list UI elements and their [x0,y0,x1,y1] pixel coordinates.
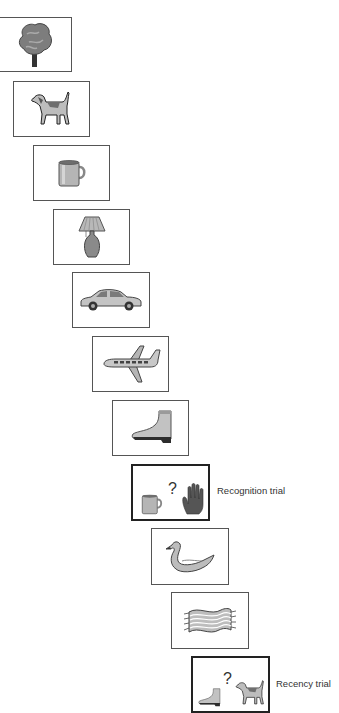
scarf-icon [181,604,239,638]
recognition-trial-label: Recognition trial [217,485,285,496]
card-swan [151,528,229,585]
card-boot [112,400,189,456]
card-dog [13,81,90,137]
dog-icon [235,678,267,708]
card-airplane [92,336,169,392]
car-icon [79,288,143,312]
question-mark: ? [223,670,232,688]
airplane-icon [100,344,162,384]
card-lamp [53,209,130,265]
card-recognition-trial: ? [131,464,210,521]
recency-trial-label: Recency trial [276,678,331,689]
tree-icon [15,22,55,68]
mug-icon [140,492,164,516]
dog-icon [30,90,74,128]
mug-icon [56,158,88,188]
card-mug [33,145,110,201]
card-recency-trial: ? [191,656,270,713]
card-tree [0,17,72,72]
card-scarf [171,592,249,649]
boot-icon [197,686,221,710]
hand-icon [181,482,207,516]
boot-icon [129,409,173,447]
question-mark: ? [168,480,177,498]
swan-icon [164,539,216,575]
card-car [72,272,150,328]
lamp-icon [77,215,107,259]
